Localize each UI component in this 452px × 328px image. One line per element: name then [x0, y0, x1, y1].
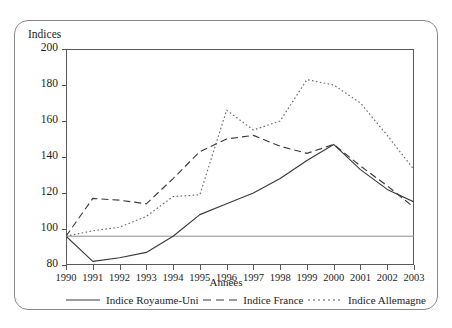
- y-tick-label: 160: [24, 113, 58, 125]
- y-tick-label: 80: [24, 257, 58, 269]
- y-tick-mark: [62, 229, 67, 230]
- legend-label-allemagne: Indice Allemagne: [348, 294, 426, 306]
- y-tick-label: 100: [24, 221, 58, 233]
- x-tick-mark: [200, 265, 201, 270]
- x-tick-mark: [93, 265, 94, 270]
- y-tick-mark: [62, 85, 67, 86]
- legend-swatch-solid: [66, 296, 100, 304]
- x-tick-mark: [360, 265, 361, 270]
- y-axis-title: Indices: [28, 28, 61, 40]
- x-tick-mark: [120, 265, 121, 270]
- x-tick-mark: [146, 265, 147, 270]
- y-tick-label: 200: [24, 41, 58, 53]
- x-tick-mark: [414, 265, 415, 270]
- y-tick-mark: [62, 157, 67, 158]
- y-tick-mark: [62, 121, 67, 122]
- legend-item-allemagne: Indice Allemagne: [308, 294, 426, 306]
- x-tick-mark: [334, 265, 335, 270]
- x-tick-mark: [66, 265, 67, 270]
- y-tick-label: 180: [24, 77, 58, 89]
- plot-canvas: [66, 49, 414, 265]
- x-tick-mark: [173, 265, 174, 270]
- legend-swatch-dotted: [308, 296, 342, 304]
- chart-figure: Indices 80100120140160180200 19901991199…: [0, 0, 452, 328]
- x-tick-mark: [307, 265, 308, 270]
- legend-item-france: Indice France: [203, 294, 303, 306]
- y-tick-label: 140: [24, 149, 58, 161]
- y-tick-mark: [62, 49, 67, 50]
- y-tick-mark: [62, 193, 67, 194]
- series-line-indice-allemagne: [66, 80, 414, 237]
- legend-swatch-dashed: [203, 296, 237, 304]
- legend-item-royaume-uni: Indice Royaume-Uni: [66, 294, 199, 306]
- x-tick-mark: [387, 265, 388, 270]
- legend-label-royaume-uni: Indice Royaume-Uni: [106, 294, 199, 306]
- series-line-indice-royaume-uni: [66, 144, 414, 261]
- x-tick-mark: [280, 265, 281, 270]
- y-tick-label: 120: [24, 185, 58, 197]
- series-line-indice-france: [66, 135, 414, 236]
- legend-label-france: Indice France: [243, 294, 303, 306]
- chart-legend: Indice Royaume-Uni Indice France Indice …: [66, 291, 426, 309]
- x-tick-mark: [253, 265, 254, 270]
- x-tick-mark: [227, 265, 228, 270]
- x-axis-title: Années: [0, 276, 452, 288]
